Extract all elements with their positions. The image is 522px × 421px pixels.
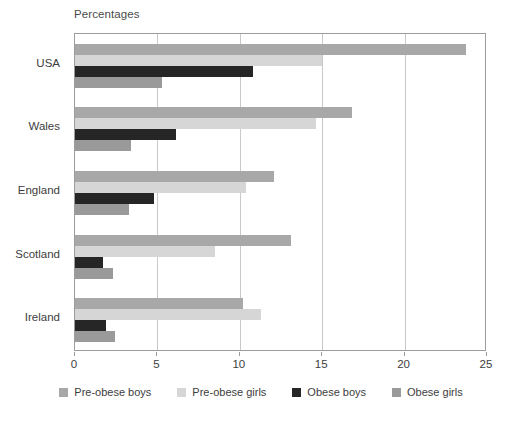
tick-label-15: 15 [315,358,328,370]
axis-title: Percentages [74,8,140,20]
legend-item: Obese girls [392,386,463,398]
category-label-scotland: Scotland [15,248,60,260]
tick-label-0: 0 [71,358,77,370]
category-label-wales: Wales [28,120,60,132]
legend-label: Pre-obese boys [74,386,151,398]
bar [75,257,103,268]
bar-group [75,44,485,88]
legend-swatch-icon [392,388,401,397]
legend-label: Obese boys [307,386,366,398]
tick-label-10: 10 [232,358,245,370]
bar [75,55,322,66]
bar [75,246,215,257]
legend: Pre-obese boysPre-obese girlsObese boysO… [0,386,522,398]
legend-item: Obese boys [292,386,366,398]
bar [75,182,246,193]
bar [75,118,316,129]
category-label-england: England [18,184,60,196]
legend-item: Pre-obese boys [59,386,151,398]
tick-mark-15 [321,352,322,356]
bar [75,171,274,182]
bar-group [75,298,485,342]
legend-item: Pre-obese girls [177,386,266,398]
bar-group [75,235,485,279]
legend-swatch-icon [59,388,68,397]
bar-group [75,171,485,215]
tick-mark-25 [486,352,487,356]
bar [75,204,129,215]
bar [75,140,131,151]
bar-chart: Percentages USAWalesEnglandScotlandIrela… [0,0,522,421]
bar [75,268,113,279]
legend-swatch-icon [177,388,186,397]
bar-group [75,107,485,151]
tick-label-20: 20 [397,358,410,370]
tick-mark-5 [156,352,157,356]
bar [75,129,176,140]
legend-swatch-icon [292,388,301,397]
tick-mark-0 [74,352,75,356]
bar [75,298,243,309]
bar [75,77,162,88]
bar [75,320,106,331]
tick-label-25: 25 [480,358,493,370]
bar [75,331,115,342]
bar [75,235,291,246]
bar [75,66,253,77]
tick-label-5: 5 [153,358,159,370]
legend-label: Pre-obese girls [192,386,266,398]
x-axis: 0510152025 [74,352,486,374]
category-axis-labels: USAWalesEnglandScotlandIreland [0,33,68,351]
bar [75,107,352,118]
bar [75,309,261,320]
bar [75,193,154,204]
category-label-usa: USA [36,57,60,69]
tick-mark-20 [404,352,405,356]
bar [75,44,466,55]
plot-area [74,33,486,351]
legend-label: Obese girls [407,386,463,398]
tick-mark-10 [239,352,240,356]
bars-layer [75,34,485,350]
category-label-ireland: Ireland [25,311,60,323]
